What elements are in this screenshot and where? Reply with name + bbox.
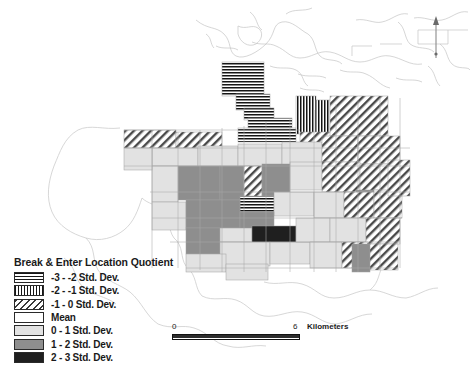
scale-min-label: 0 — [172, 322, 176, 331]
map-region[interactable] — [314, 192, 344, 218]
map-region[interactable] — [152, 166, 178, 202]
legend-swatch-solid — [14, 325, 44, 336]
map-region[interactable] — [236, 94, 270, 110]
scale-bar-graphic — [172, 334, 300, 340]
map-region[interactable] — [252, 226, 296, 244]
map-region[interactable] — [222, 62, 264, 96]
map-region[interactable] — [220, 228, 252, 242]
legend-item[interactable]: -1 - 0 Std. Dev. — [14, 298, 214, 311]
legend-swatch-solid — [14, 352, 44, 363]
map-region[interactable] — [322, 136, 358, 162]
map-figure: Break & Enter Location Quotient -3 - -2 … — [0, 0, 470, 368]
legend-item[interactable]: -3 - -2 Std. Dev. — [14, 271, 214, 284]
map-region[interactable] — [220, 166, 244, 200]
map-region[interactable] — [388, 160, 410, 196]
legend-item-label: Mean — [51, 312, 76, 323]
map-region[interactable] — [274, 192, 314, 216]
legend-item-label: -1 - 0 Std. Dev. — [51, 299, 116, 310]
map-region[interactable] — [186, 228, 220, 254]
legend-swatch-solid — [14, 339, 44, 350]
legend-item-label: 1 - 2 Std. Dev. — [51, 339, 113, 350]
legend-item[interactable]: -2 - -1 Std. Dev. — [14, 284, 214, 297]
map-region[interactable] — [310, 242, 342, 268]
scale-bar-fill — [173, 335, 299, 338]
map-region[interactable] — [124, 148, 152, 170]
legend-item-label: 2 - 3 Std. Dev. — [51, 352, 113, 363]
legend-item-label: -2 - -1 Std. Dev. — [51, 285, 119, 296]
map-region[interactable] — [330, 96, 388, 136]
map-region[interactable] — [240, 196, 274, 212]
map-region[interactable] — [322, 162, 360, 192]
legend-title: Break & Enter Location Quotient — [14, 256, 214, 268]
legend-item-label: 0 - 1 Std. Dev. — [51, 325, 113, 336]
map-region[interactable] — [198, 146, 238, 166]
map-region[interactable] — [226, 264, 268, 280]
map-region[interactable] — [220, 242, 270, 266]
map-region[interactable] — [344, 192, 374, 218]
map-region[interactable] — [178, 166, 220, 200]
map-region[interactable] — [244, 166, 262, 198]
scale-units-label: Kilometers — [307, 322, 348, 331]
legend-rows: -3 - -2 Std. Dev.-2 - -1 Std. Dev.-1 - 0… — [14, 271, 214, 364]
scale-bar: 0 6 Kilometers — [172, 322, 302, 340]
legend-swatch-diagonal-hatch — [14, 299, 44, 310]
map-region[interactable] — [366, 218, 400, 244]
scale-max-label: 6 — [293, 322, 297, 331]
map-region[interactable] — [238, 144, 282, 166]
map-region[interactable] — [296, 96, 316, 134]
legend-item-label: -3 - -2 Std. Dev. — [51, 272, 119, 283]
map-region[interactable] — [186, 200, 240, 228]
map-region[interactable] — [330, 218, 366, 242]
map-region[interactable] — [176, 132, 222, 148]
legend-swatch-horizontal-lines — [14, 272, 44, 283]
map-region[interactable] — [152, 148, 198, 166]
map-region[interactable] — [316, 100, 330, 134]
map-region[interactable] — [152, 202, 186, 230]
legend-item[interactable]: 2 - 3 Std. Dev. — [14, 351, 214, 364]
legend: Break & Enter Location Quotient -3 - -2 … — [14, 256, 214, 364]
map-region[interactable] — [296, 218, 330, 242]
scale-bar-labels: 0 6 Kilometers — [172, 322, 302, 333]
legend-swatch-vertical-lines — [14, 285, 44, 296]
map-region[interactable] — [124, 130, 176, 148]
legend-swatch-solid — [14, 312, 44, 323]
map-region[interactable] — [368, 244, 398, 270]
